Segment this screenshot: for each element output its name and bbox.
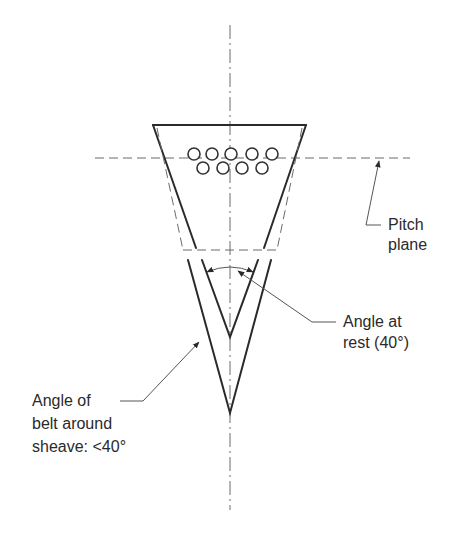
angle-at-rest-leader [238, 271, 336, 322]
angle-around-sheave-leader [120, 342, 199, 401]
pitch-plane-leader [366, 161, 381, 225]
angle-around-sheave-label: Angle of belt around sheave: <40° [32, 392, 126, 455]
v-belt-diagram: Pitch plane Angle at rest (40°) Angle of… [0, 0, 450, 535]
pitch-plane-label: Pitch plane [388, 216, 428, 253]
angle-at-rest-label: Angle at rest (40°) [343, 313, 409, 351]
tension-cords [188, 148, 278, 174]
